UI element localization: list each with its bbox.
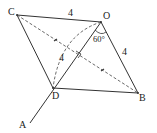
segment-DB: [53, 88, 138, 93]
label-point-B: B: [139, 92, 146, 103]
point-C-dot: [16, 14, 18, 16]
segment-OB: [101, 22, 138, 93]
label-point-C: C: [8, 6, 15, 17]
point-O-dot: [100, 21, 102, 23]
segment-CO: [17, 15, 101, 22]
label-point-D: D: [52, 90, 59, 101]
segment-CB-dashed: [17, 15, 138, 93]
label-point-A: A: [19, 119, 27, 130]
label-angle-O: 60°: [93, 34, 105, 44]
label-side-OB: 4: [122, 46, 127, 57]
geometry-diagram: C O B D A 4 4 4 60°: [0, 0, 157, 133]
label-point-O: O: [103, 10, 110, 21]
segment-CD: [17, 15, 53, 88]
label-side-CO: 4: [68, 7, 73, 18]
label-arc-OD: 4: [59, 52, 64, 63]
point-D-dot: [52, 87, 54, 89]
segment-AO: [30, 22, 101, 123]
